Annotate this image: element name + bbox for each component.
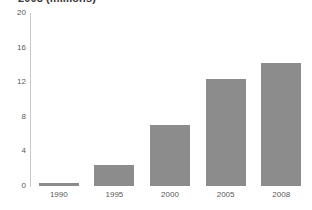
bar-chart: 2008 (millions) 048121620 19901995200020… bbox=[0, 0, 312, 210]
bar-slot bbox=[94, 13, 134, 186]
bar-slot bbox=[206, 13, 246, 186]
y-axis-tick-label: 16 bbox=[2, 44, 26, 52]
y-axis-tick-label: 12 bbox=[2, 78, 26, 86]
x-axis-tick-label: 1995 bbox=[86, 190, 142, 199]
bar bbox=[261, 63, 301, 186]
y-axis-tick-label: 4 bbox=[2, 147, 26, 155]
y-axis-tick-labels: 048121620 bbox=[0, 0, 26, 210]
x-axis-tick-label: 2005 bbox=[198, 190, 254, 199]
x-axis-tick-label: 2000 bbox=[142, 190, 198, 199]
y-axis-tick-label: 20 bbox=[2, 9, 26, 17]
plot-area bbox=[31, 13, 309, 186]
bar bbox=[206, 79, 246, 186]
y-axis-tick-label: 8 bbox=[2, 113, 26, 121]
y-axis-tick-label: 0 bbox=[2, 182, 26, 190]
x-axis-tick-label: 2008 bbox=[253, 190, 309, 199]
bar bbox=[39, 183, 79, 186]
bar bbox=[94, 165, 134, 186]
bar-slot bbox=[261, 13, 301, 186]
chart-title: 2008 (millions) bbox=[18, 0, 96, 4]
bar-slot bbox=[150, 13, 190, 186]
bar-slot bbox=[39, 13, 79, 186]
bar bbox=[150, 125, 190, 186]
x-axis-tick-label: 1990 bbox=[31, 190, 87, 199]
